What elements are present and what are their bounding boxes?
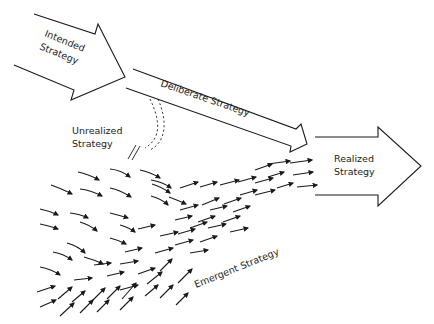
unrealized-strategy-path: Unrealized Strategy [72, 99, 164, 160]
intended-strategy-arrow: Intended Strategy [0, 0, 125, 100]
emergent-arrow-field [37, 160, 317, 316]
realized-label-1: Realized [334, 153, 374, 164]
unrealized-label-2: Strategy [72, 138, 113, 149]
block-line-1-icon [128, 145, 136, 159]
deliberate-strategy-arrow: Deliberate Strategy [126, 69, 307, 152]
unrealized-label-1: Unrealized [72, 125, 122, 136]
realized-strategy-arrow: Realized Strategy [315, 127, 421, 206]
emergent-label: Emergent Strategy [193, 246, 281, 290]
realized-label-2: Strategy [334, 166, 375, 177]
block-line-2-icon [132, 146, 140, 160]
strategy-diagram: Intended Strategy Deliberate Strategy Un… [0, 0, 434, 324]
deliberate-label: Deliberate Strategy [159, 77, 251, 118]
